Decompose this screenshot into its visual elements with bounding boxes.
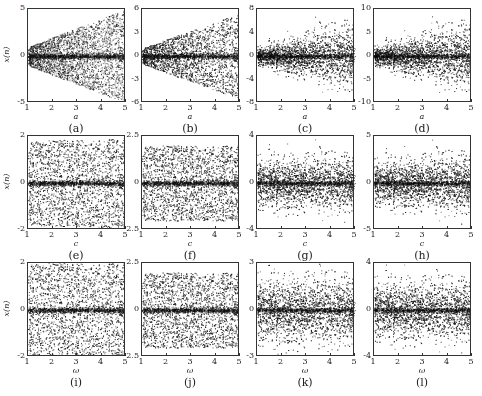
panel-caption-i: (i) — [61, 376, 91, 389]
x-tick-mark — [215, 226, 216, 229]
x-tick-mark — [422, 226, 423, 229]
y-axis-label: x(n) — [348, 301, 357, 317]
plot-area-a — [27, 8, 125, 102]
x-tick-label: 3 — [185, 104, 195, 112]
x-tick-mark — [141, 226, 142, 229]
x-tick-mark — [166, 99, 167, 102]
x-tick-mark — [305, 353, 306, 356]
plot-area-d — [373, 8, 471, 102]
x-tick-mark — [398, 99, 399, 102]
x-tick-label: 5 — [466, 104, 476, 112]
y-tick-label: 5 — [351, 131, 371, 139]
y-tick-label: 10 — [351, 4, 371, 12]
y-tick-label: -5 — [351, 75, 371, 83]
x-tick-label: 3 — [300, 231, 310, 239]
x-tick-label: 3 — [71, 104, 81, 112]
x-tick-label: 3 — [417, 104, 427, 112]
y-tick-label: 2 — [5, 258, 25, 266]
x-tick-label: 1 — [22, 231, 32, 239]
scatter-points-g — [257, 136, 354, 229]
plot-area-g — [256, 135, 354, 229]
plot-area-l — [373, 262, 471, 356]
x-tick-label: 3 — [417, 358, 427, 366]
y-tick-label: -3 — [119, 75, 139, 83]
x-tick-label: 4 — [442, 358, 452, 366]
x-tick-mark — [373, 353, 374, 356]
x-tick-mark — [101, 226, 102, 229]
x-tick-mark — [27, 99, 28, 102]
x-tick-label: 4 — [442, 231, 452, 239]
x-tick-label: 3 — [417, 231, 427, 239]
x-tick-mark — [141, 353, 142, 356]
x-tick-mark — [447, 353, 448, 356]
plot-area-j — [141, 262, 239, 356]
x-tick-label: 1 — [22, 104, 32, 112]
panel-caption-k: (k) — [290, 376, 320, 389]
x-tick-mark — [190, 353, 191, 356]
x-tick-mark — [330, 226, 331, 229]
x-tick-mark — [141, 99, 142, 102]
panel-caption-g: (g) — [290, 249, 320, 262]
panel-caption-f: (f) — [175, 249, 205, 262]
x-tick-mark — [330, 353, 331, 356]
x-axis-label: a — [180, 112, 200, 121]
x-axis-label: c — [66, 239, 86, 248]
x-tick-label: 4 — [210, 104, 220, 112]
x-tick-label: 2 — [393, 104, 403, 112]
y-tick-label: -4 — [234, 75, 254, 83]
x-tick-label: 1 — [136, 358, 146, 366]
x-tick-label: 3 — [300, 358, 310, 366]
x-tick-mark — [215, 353, 216, 356]
x-tick-mark — [190, 226, 191, 229]
y-tick-label: 3 — [234, 258, 254, 266]
x-tick-mark — [52, 353, 53, 356]
y-axis-label: x(n) — [2, 174, 11, 190]
x-tick-mark — [52, 226, 53, 229]
x-axis-label: ω — [66, 366, 86, 375]
y-tick-label: 4 — [234, 28, 254, 36]
x-tick-mark — [256, 353, 257, 356]
scatter-points-l — [374, 263, 471, 356]
x-tick-label: 2 — [276, 231, 286, 239]
x-tick-label: 2 — [47, 358, 57, 366]
x-tick-mark — [471, 353, 472, 356]
x-tick-mark — [76, 99, 77, 102]
x-tick-label: 2 — [393, 231, 403, 239]
x-tick-mark — [373, 99, 374, 102]
scatter-points-a — [28, 9, 125, 102]
panel-caption-b: (b) — [175, 122, 205, 135]
x-tick-mark — [166, 353, 167, 356]
x-tick-label: 1 — [251, 358, 261, 366]
y-tick-label: 2 — [5, 131, 25, 139]
x-tick-label: 3 — [185, 358, 195, 366]
y-axis-label: x(n) — [116, 301, 125, 317]
y-axis-label: x(n) — [348, 47, 357, 63]
x-tick-mark — [27, 226, 28, 229]
scatter-points-b — [142, 9, 239, 102]
y-tick-label: 4 — [351, 258, 371, 266]
x-tick-label: 5 — [466, 231, 476, 239]
x-tick-label: 1 — [251, 231, 261, 239]
x-tick-mark — [52, 99, 53, 102]
y-tick-label: 3 — [119, 28, 139, 36]
x-tick-label: 1 — [368, 104, 378, 112]
scatter-points-c — [257, 9, 354, 102]
plot-area-c — [256, 8, 354, 102]
y-axis-label: x(n) — [348, 174, 357, 190]
scatter-points-i — [28, 263, 125, 356]
y-tick-label: 6 — [119, 4, 139, 12]
x-tick-mark — [190, 99, 191, 102]
y-axis-label: x(n) — [231, 47, 240, 63]
panel-caption-e: (e) — [61, 249, 91, 262]
x-tick-mark — [471, 226, 472, 229]
x-tick-label: 2 — [276, 104, 286, 112]
x-tick-mark — [281, 226, 282, 229]
x-tick-label: 1 — [136, 231, 146, 239]
x-axis-label: a — [66, 112, 86, 121]
y-axis-label: x(n) — [231, 174, 240, 190]
scatter-points-h — [374, 136, 471, 229]
x-tick-label: 4 — [210, 358, 220, 366]
x-tick-mark — [471, 99, 472, 102]
x-tick-mark — [305, 226, 306, 229]
x-tick-label: 3 — [71, 231, 81, 239]
